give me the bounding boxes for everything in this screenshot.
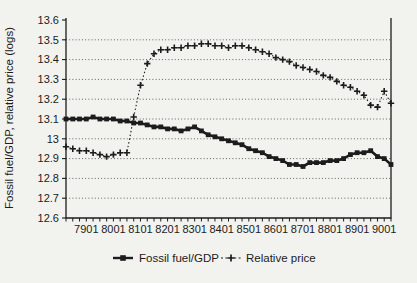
plus-marker-icon [178, 45, 184, 51]
plus-marker-icon [70, 146, 76, 152]
square-marker-icon [267, 154, 272, 159]
plus-marker-icon [334, 78, 340, 84]
square-marker-icon [321, 160, 326, 165]
square-marker-icon [301, 164, 306, 169]
square-marker-icon [368, 148, 373, 153]
plus-marker-icon [131, 114, 137, 120]
y-tick-label: 13 [47, 133, 59, 145]
square-marker-icon [125, 119, 130, 124]
x-tick-label: 9001 [372, 223, 396, 235]
y-axis-ticks: 12.612.712.812.91313.113.213.313.413.513… [38, 14, 66, 224]
plus-marker-icon [347, 84, 353, 90]
square-marker-icon [375, 154, 380, 159]
plus-marker-icon [361, 92, 367, 98]
square-marker-icon [179, 129, 184, 134]
legend: Fossil fuel/GDP Relative price [113, 252, 316, 264]
plus-marker-icon [110, 151, 116, 157]
y-tick-label: 12.7 [38, 192, 59, 204]
square-marker-icon [328, 158, 333, 163]
square-marker-icon [118, 119, 123, 124]
square-marker-icon [362, 150, 367, 155]
square-marker-icon [341, 156, 346, 161]
plus-marker-icon [374, 104, 380, 110]
square-marker-icon [253, 148, 258, 153]
square-marker-icon [172, 127, 177, 132]
square-marker-icon [84, 117, 89, 122]
legend-plus-marker-icon [227, 254, 234, 261]
plus-marker-icon [313, 68, 319, 74]
plus-marker-icon [124, 150, 130, 156]
x-tick-label: 8901 [345, 223, 369, 235]
square-marker-icon [213, 134, 218, 139]
plus-marker-icon [354, 88, 360, 94]
square-marker-icon [334, 158, 339, 163]
x-axis-ticks: 7901800181018201830184018501860187018801… [66, 218, 396, 235]
square-marker-icon [64, 117, 69, 122]
square-marker-icon [287, 162, 292, 167]
y-tick-label: 12.6 [38, 212, 59, 224]
y-tick-label: 12.9 [38, 152, 59, 164]
chart-figure: Fossil fuel/GDP, relative price (logs) 1… [0, 0, 417, 283]
y-axis-title: Fossil fuel/GDP, relative price (logs) [3, 27, 15, 209]
square-marker-icon [348, 152, 353, 157]
plus-marker-icon [266, 51, 272, 57]
plus-marker-icon [103, 153, 109, 159]
x-tick-label: 8801 [318, 223, 342, 235]
square-marker-icon [192, 125, 197, 130]
square-marker-icon [280, 158, 285, 163]
square-marker-icon [104, 117, 109, 122]
plus-marker-icon [205, 41, 211, 47]
plus-marker-icon [320, 72, 326, 78]
plus-marker-icon [225, 45, 231, 51]
square-marker-icon [307, 160, 312, 165]
plus-marker-icon [164, 47, 170, 53]
plus-marker-icon [293, 62, 299, 68]
x-tick-label: 8601 [264, 223, 288, 235]
series-fossil-fuel-gdp [64, 115, 394, 169]
chart-canvas: Fossil fuel/GDP, relative price (logs) 1… [0, 0, 417, 283]
plus-marker-icon [368, 102, 374, 108]
x-tick-label: 8301 [182, 223, 206, 235]
x-tick-label: 8001 [101, 223, 125, 235]
y-tick-label: 13.2 [38, 93, 59, 105]
plus-marker-icon [259, 49, 265, 55]
plus-marker-icon [381, 88, 387, 94]
square-marker-icon [199, 129, 204, 134]
legend-label-fossil: Fossil fuel/GDP [139, 252, 219, 264]
square-marker-icon [186, 127, 191, 132]
square-marker-icon [355, 150, 360, 155]
plus-marker-icon [117, 150, 123, 156]
square-marker-icon [206, 132, 211, 137]
square-marker-icon [219, 136, 224, 141]
plus-marker-icon [158, 47, 164, 53]
y-tick-label: 13.4 [38, 53, 59, 65]
x-tick-label: 8101 [128, 223, 152, 235]
plus-marker-icon [300, 64, 306, 70]
legend-square-marker-icon [120, 255, 126, 261]
plus-marker-icon [76, 148, 82, 154]
plus-marker-icon [232, 43, 238, 49]
square-marker-icon [246, 146, 251, 151]
square-marker-icon [111, 117, 116, 122]
x-tick-label: 8501 [237, 223, 261, 235]
plus-marker-icon [137, 82, 143, 88]
plus-marker-icon [171, 45, 177, 51]
plus-marker-icon [63, 144, 69, 150]
plus-marker-icon [219, 43, 225, 49]
square-marker-icon [77, 117, 82, 122]
square-marker-icon [70, 117, 75, 122]
y-tick-label: 13.6 [38, 14, 59, 26]
square-marker-icon [314, 160, 319, 165]
y-tick-label: 13.5 [38, 34, 59, 46]
square-marker-icon [240, 142, 245, 147]
square-marker-icon [260, 150, 265, 155]
plus-marker-icon [191, 43, 197, 49]
square-marker-icon [226, 138, 231, 143]
legend-label-relative: Relative price [246, 252, 316, 264]
plus-marker-icon [340, 82, 346, 88]
plus-marker-icon [388, 100, 394, 106]
plus-marker-icon [83, 148, 89, 154]
plus-marker-icon [307, 66, 313, 72]
plus-marker-icon [239, 43, 245, 49]
plus-marker-icon [151, 51, 157, 57]
